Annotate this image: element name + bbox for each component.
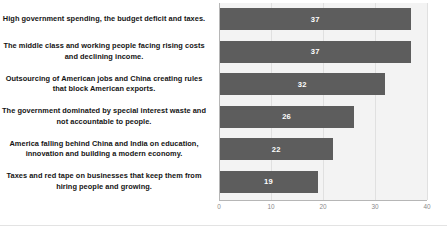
bar: 32 [219,73,385,95]
bar-row: 19 [219,166,427,199]
x-tick-label: 10 [267,203,274,210]
x-axis-tick-labels: 010203040 [219,203,427,215]
bar-row: 37 [219,3,427,36]
x-tick-label: 40 [423,203,430,210]
bar-row: 26 [219,101,427,134]
bar-value-label: 22 [272,145,281,154]
bar-row: 37 [219,36,427,69]
category-label-column: High government spending, the budget def… [0,0,214,200]
bar-row: 32 [219,68,427,101]
bar-row: 22 [219,133,427,166]
bar-value-label: 37 [311,47,320,56]
category-label-text: The government dominated by special inte… [0,106,208,127]
category-label: Outsourcing of American jobs and China c… [0,68,214,101]
bar-value-label: 37 [311,15,320,24]
bar: 26 [219,106,354,128]
bar-value-label: 26 [282,112,291,121]
y-axis-line [219,3,220,200]
category-label-text: Taxes and red tape on businesses that ke… [0,171,208,192]
category-label-text: America falling behind China and India o… [0,139,208,160]
horizontal-bar-chart: High government spending, the budget def… [0,0,447,227]
x-tick-label: 30 [371,203,378,210]
category-label: America falling behind China and India o… [0,133,214,166]
plot-area: 37 37 32 26 22 [219,3,427,200]
category-label-text: The middle class and working people faci… [0,41,208,62]
x-tick-label: 0 [217,203,221,210]
bar: 37 [219,8,411,30]
x-axis-line [219,200,427,201]
x-tick-label: 20 [319,203,326,210]
category-label-text: Outsourcing of American jobs and China c… [0,74,208,95]
bar-value-label: 19 [264,177,273,186]
bar-value-label: 32 [298,80,307,89]
category-label: High government spending, the budget def… [0,3,214,36]
gridline [427,3,428,200]
category-label: The government dominated by special inte… [0,101,214,134]
bar: 19 [219,171,318,193]
bar-series: 37 37 32 26 22 [219,3,427,200]
figure-bottom-rule [0,225,447,226]
category-label: The middle class and working people faci… [0,36,214,69]
bar: 22 [219,138,333,160]
bar: 37 [219,41,411,63]
category-label: Taxes and red tape on businesses that ke… [0,166,214,199]
category-label-text: High government spending, the budget def… [0,14,208,25]
